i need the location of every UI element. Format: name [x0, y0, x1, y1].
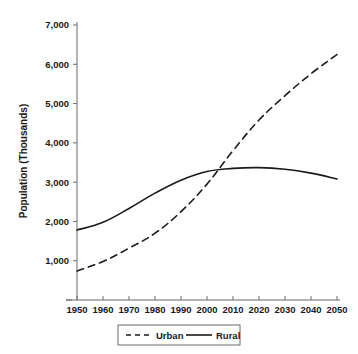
legend-label-rural: Rural	[216, 330, 240, 341]
y-tick-label: 3,000	[45, 177, 69, 188]
x-tick-label: 1950	[66, 304, 87, 315]
x-tick-label: 1960	[92, 304, 113, 315]
x-tick-label: 2030	[274, 304, 295, 315]
x-tick-label: 2050	[326, 304, 347, 315]
x-tick-label: 1980	[144, 304, 165, 315]
chart-canvas: 1,0002,0003,0004,0005,0006,0007,000 Popu…	[0, 0, 358, 354]
x-tick-label: 1990	[170, 304, 191, 315]
y-tick-label: 1,000	[45, 255, 69, 266]
y-tick-label: 6,000	[45, 59, 69, 70]
y-axis-title: Population (Thousands)	[18, 104, 29, 218]
plot-series-group	[77, 54, 337, 270]
x-tick-label: 2020	[248, 304, 269, 315]
y-axis-group: 1,0002,0003,0004,0005,0006,0007,000 Popu…	[18, 19, 77, 300]
x-tick-label: 1970	[118, 304, 139, 315]
y-tick-label: 2,000	[45, 216, 69, 227]
y-axis-ticks: 1,0002,0003,0004,0005,0006,0007,000	[45, 19, 77, 300]
legend: Urban Rural	[118, 325, 240, 345]
y-tick-label: 4,000	[45, 137, 69, 148]
legend-label-urban: Urban	[156, 330, 184, 341]
x-axis-group: 1950196019701980199020002010202020302040…	[66, 296, 348, 315]
y-tick-label: 5,000	[45, 98, 69, 109]
population-line-chart: 1,0002,0003,0004,0005,0006,0007,000 Popu…	[0, 0, 358, 354]
x-tick-label: 2040	[300, 304, 321, 315]
x-tick-label: 2000	[196, 304, 217, 315]
y-tick-label: 7,000	[45, 19, 69, 30]
x-axis-ticks: 1950196019701980199020002010202020302040…	[66, 296, 347, 315]
series-line-urban	[77, 54, 337, 270]
series-line-rural	[77, 168, 337, 231]
x-tick-label: 2010	[222, 304, 243, 315]
